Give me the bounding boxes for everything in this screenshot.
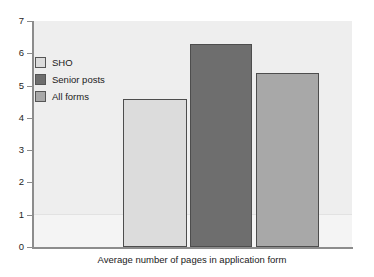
y-axis-tick-label: 1 bbox=[8, 210, 24, 220]
y-axis-tick-mark bbox=[27, 21, 32, 22]
y-axis-tick-mark bbox=[27, 215, 32, 216]
bar-sho bbox=[123, 99, 187, 248]
bar-all-forms bbox=[256, 73, 319, 247]
y-axis-tick-label: 3 bbox=[8, 145, 24, 155]
legend-item-label: SHO bbox=[52, 58, 73, 68]
bar-senior-posts bbox=[190, 44, 252, 247]
y-axis-tick-label: 5 bbox=[8, 81, 24, 91]
y-axis-tick-mark bbox=[27, 150, 32, 151]
legend-item: All forms bbox=[35, 89, 113, 104]
legend-swatch-icon bbox=[35, 91, 46, 102]
y-axis-tick-mark bbox=[27, 53, 32, 54]
legend-item: SHO bbox=[35, 55, 113, 70]
y-axis-tick-mark bbox=[27, 247, 32, 248]
x-axis-title: Average number of pages in application f… bbox=[32, 254, 352, 265]
y-axis-tick-label: 6 bbox=[8, 49, 24, 59]
bar-chart-figure: 76543210 SHOSenior postsAll forms Averag… bbox=[0, 0, 374, 277]
y-axis-tick-label: 2 bbox=[8, 178, 24, 188]
legend-item: Senior posts bbox=[35, 72, 113, 87]
y-axis-tick-mark bbox=[27, 86, 32, 87]
legend-item-label: Senior posts bbox=[52, 75, 105, 85]
x-axis-line bbox=[32, 247, 353, 249]
y-axis-tick-mark bbox=[27, 118, 32, 119]
legend-item-label: All forms bbox=[52, 92, 89, 102]
y-axis-tick-mark bbox=[27, 182, 32, 183]
legend-swatch-icon bbox=[35, 57, 46, 68]
legend-swatch-icon bbox=[35, 74, 46, 85]
y-axis-tick-label: 7 bbox=[8, 16, 24, 26]
y-axis-tick-label: 4 bbox=[8, 113, 24, 123]
y-axis-line bbox=[32, 21, 34, 248]
y-axis-tick-label: 0 bbox=[8, 242, 24, 252]
chart-legend: SHOSenior postsAll forms bbox=[35, 55, 113, 106]
